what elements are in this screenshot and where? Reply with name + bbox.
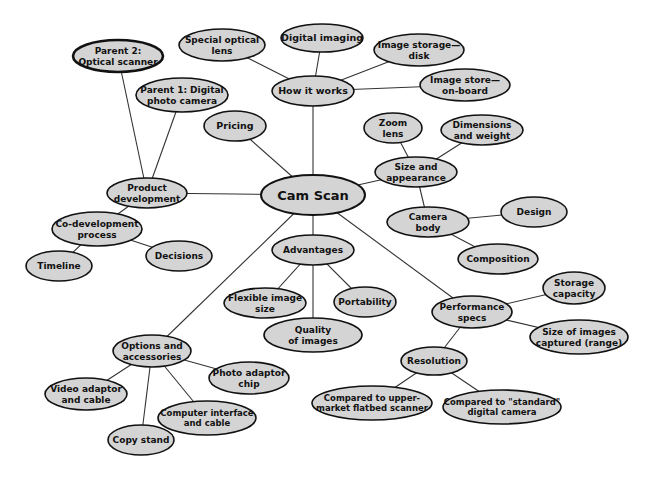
node-label: Options and [121, 341, 182, 351]
node-label: Zoom [379, 118, 407, 128]
node-label: Pricing [216, 120, 253, 131]
node-label: Composition [466, 254, 529, 264]
node-label: and cable [184, 418, 231, 428]
node-label: Timeline [37, 261, 80, 271]
node-video-adaptor: Video adaptorand cable [45, 378, 127, 410]
node-decisions: Decisions [146, 241, 212, 271]
node-label: Image store— [430, 75, 500, 85]
node-label: photo camera [147, 96, 217, 106]
node-cam-scan: Cam Scan [261, 175, 365, 215]
node-label: Compared to upper- [324, 393, 421, 403]
node-label: Photo adaptor [213, 368, 286, 378]
node-label: lens [383, 129, 404, 139]
node-label: Digital imaging [281, 32, 363, 43]
node-label: Design [517, 207, 552, 217]
node-label: development [114, 194, 181, 204]
node-label: Size and [395, 162, 438, 172]
node-label: and weight [454, 131, 511, 141]
node-label: chip [238, 379, 260, 389]
node-copy-stand: Copy stand [108, 425, 174, 455]
node-special-optical-lens: Special opticallens [179, 29, 265, 61]
node-label: Copy stand [113, 435, 170, 445]
node-label: specs [458, 313, 487, 323]
node-co-development: Co-developmentprocess [52, 212, 142, 246]
node-label: Resolution [407, 356, 461, 366]
node-performance-specs: Performancespecs [432, 296, 512, 328]
node-label: Performance [440, 302, 505, 312]
node-how-it-works: How it works [272, 76, 354, 106]
node-design: Design [501, 197, 567, 227]
node-label: on-board [442, 86, 488, 96]
node-computer-interface: Computer interfaceand cable [158, 401, 256, 435]
node-label: Dimensions [453, 120, 512, 130]
node-label: Video adaptor [50, 384, 122, 394]
node-resolution: Resolution [401, 347, 467, 375]
node-composition: Composition [458, 244, 538, 274]
node-size-and-appearance: Size andappearance [375, 157, 457, 187]
node-label: accessories [123, 352, 182, 362]
node-image-store-onboard: Image store—on-board [420, 69, 510, 101]
node-timeline: Timeline [26, 251, 92, 281]
node-label: appearance [386, 173, 446, 183]
node-label: disk [409, 51, 431, 61]
node-label: Parent 2: [95, 46, 142, 56]
node-label: Image storage— [378, 40, 460, 50]
node-parent-1: Parent 1: Digitalphoto camera [136, 78, 228, 112]
node-zoom-lens: Zoomlens [364, 113, 422, 143]
node-portability: Portability [334, 287, 396, 317]
node-label: Storage [554, 278, 594, 288]
node-label: Product [127, 183, 167, 193]
node-digital-imaging: Digital imaging [281, 24, 363, 52]
node-storage-capacity: Storagecapacity [543, 272, 605, 304]
node-pricing: Pricing [204, 111, 266, 141]
node-label: process [77, 230, 116, 240]
node-compared-standard: Compared to "standard"digital camera [443, 390, 561, 424]
node-product-development: Productdevelopment [107, 178, 187, 208]
node-label: Quality [295, 325, 332, 335]
node-parent-2: Parent 2:Optical scanner [73, 40, 163, 72]
node-label: lens [212, 46, 233, 56]
node-photo-adaptor-chip: Photo adaptorchip [209, 362, 289, 394]
node-label: and cable [61, 395, 110, 405]
node-dimensions-weight: Dimensionsand weight [441, 115, 523, 145]
node-flexible-image-size: Flexible imagesize [224, 288, 306, 318]
node-label: Computer interface [160, 408, 254, 418]
node-options-accessories: Options andaccessories [113, 335, 191, 367]
node-label: Co-development [56, 219, 140, 229]
node-label: digital camera [468, 407, 537, 417]
node-label: Special optical [185, 35, 259, 45]
node-label: Flexible image [228, 293, 302, 303]
node-label: Portability [338, 297, 392, 307]
node-label: Camera [409, 212, 448, 222]
node-camera-body: Camerabody [387, 207, 469, 237]
node-label: Parent 1: Digital [140, 85, 223, 95]
node-label: How it works [278, 85, 348, 96]
node-label: size [255, 304, 275, 314]
node-label: Advantages [283, 245, 343, 255]
mind-map-canvas: Cam ScanHow it worksSpecial opticallensD… [0, 0, 662, 477]
node-label: Cam Scan [277, 188, 348, 203]
node-size-of-images: Size of imagescaptured (range) [530, 320, 628, 354]
node-label: Optical scanner [78, 57, 158, 67]
node-quality-of-images: Qualityof images [264, 318, 362, 352]
node-label: of images [288, 336, 338, 346]
node-image-storage-disk: Image storage—disk [374, 34, 464, 66]
node-label: Size of images [542, 327, 616, 337]
node-compared-flatbed: Compared to upper-market flatbed scanner [312, 386, 432, 420]
node-label: market flatbed scanner [316, 403, 429, 413]
node-label: Compared to "standard" [444, 397, 560, 407]
node-advantages: Advantages [272, 235, 354, 265]
node-label: Decisions [155, 251, 203, 261]
node-label: capacity [553, 289, 596, 299]
node-label: captured (range) [536, 338, 622, 348]
node-label: body [416, 223, 441, 233]
